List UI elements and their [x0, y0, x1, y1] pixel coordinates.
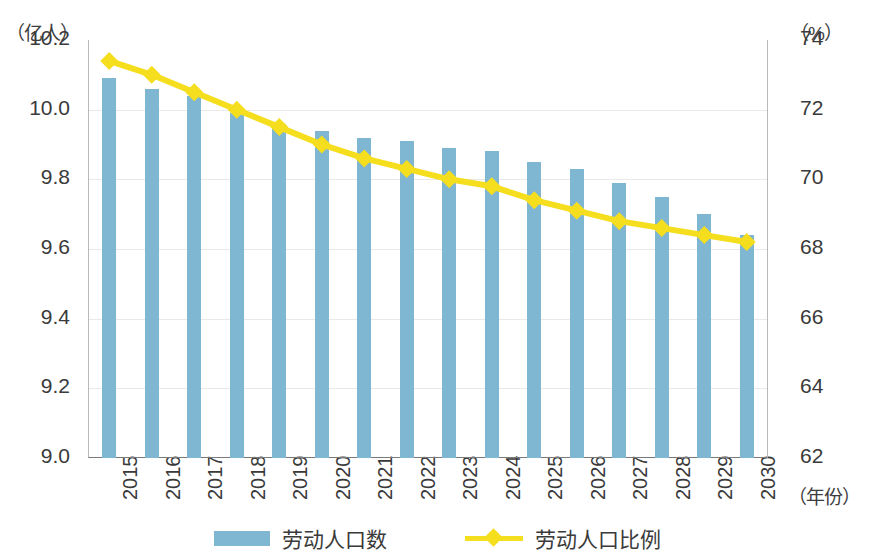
legend-label-bar: 劳动人口数	[282, 523, 387, 553]
x-axis-tick-label: 2022	[417, 456, 440, 501]
x-axis-unit-label: （年份）	[788, 482, 860, 509]
diamond-marker-icon	[313, 136, 331, 154]
x-axis-tick-label: 2026	[587, 456, 610, 501]
right-axis-tick-label: 66	[800, 305, 823, 329]
diamond-marker-icon	[483, 177, 501, 195]
left-axis-tick-label: 9.6	[41, 235, 70, 259]
legend-item-line: 劳动人口比例	[465, 523, 661, 553]
legend-label-line: 劳动人口比例	[535, 523, 661, 553]
line-path	[109, 61, 747, 242]
line-swatch-icon	[465, 529, 523, 547]
x-axis-tick-label: 2016	[162, 456, 185, 501]
diamond-marker-icon	[653, 219, 671, 237]
x-axis-tick-label: 2020	[332, 456, 355, 501]
right-axis-tick-label: 72	[800, 96, 823, 120]
x-axis-tick-label: 2023	[459, 456, 482, 501]
diamond-marker-icon	[568, 202, 586, 220]
left-axis-tick-label: 10.0	[29, 96, 70, 120]
diamond-marker-icon	[143, 66, 161, 84]
diamond-marker-icon	[610, 212, 628, 230]
diamond-marker-icon	[484, 528, 502, 546]
x-axis-tick-label: 2027	[629, 456, 652, 501]
diamond-marker-icon	[355, 149, 373, 167]
x-axis-tick-label: 2018	[247, 456, 270, 501]
plot-area	[88, 40, 768, 458]
left-axis-tick-label: 9.8	[41, 165, 70, 189]
left-axis-tick-label: 9.2	[41, 374, 70, 398]
right-axis-tick-label: 64	[800, 374, 823, 398]
right-axis-tick-label: 62	[800, 444, 823, 468]
x-axis-tick-label: 2015	[119, 456, 142, 501]
diamond-marker-icon	[440, 170, 458, 188]
x-axis-tick-label: 2019	[289, 456, 312, 501]
line-series	[88, 40, 768, 458]
left-axis-tick-label: 10.2	[29, 26, 70, 50]
labor-population-chart: （亿人） （%） （年份） 10.210.09.89.69.49.29.0 74…	[0, 0, 875, 559]
x-axis-tick-label: 2028	[672, 456, 695, 501]
bar-swatch-icon	[214, 531, 270, 546]
x-axis-tick-label: 2029	[714, 456, 737, 501]
diamond-marker-icon	[100, 52, 118, 70]
left-axis-tick-label: 9.4	[41, 305, 70, 329]
diamond-marker-icon	[738, 233, 756, 251]
diamond-marker-icon	[695, 226, 713, 244]
x-axis-tick-label: 2025	[544, 456, 567, 501]
left-axis-tick-label: 9.0	[41, 444, 70, 468]
right-axis-tick-label: 70	[800, 165, 823, 189]
x-axis-tick-label: 2030	[757, 456, 780, 501]
legend-item-bar: 劳动人口数	[214, 523, 387, 553]
x-axis-tick-label: 2017	[204, 456, 227, 501]
x-axis-tick-label: 2024	[502, 456, 525, 501]
diamond-marker-icon	[185, 83, 203, 101]
diamond-marker-icon	[228, 101, 246, 119]
diamond-marker-icon	[270, 118, 288, 136]
x-axis-tick-label: 2021	[374, 456, 397, 501]
diamond-marker-icon	[398, 160, 416, 178]
right-axis-tick-label: 74	[800, 26, 823, 50]
right-axis-tick-label: 68	[800, 235, 823, 259]
diamond-marker-icon	[525, 191, 543, 209]
line-markers	[100, 52, 756, 251]
chart-legend: 劳动人口数 劳动人口比例	[0, 523, 875, 553]
